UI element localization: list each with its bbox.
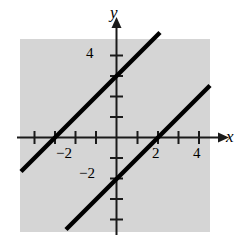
y-tick-label--2: −2 bbox=[79, 166, 95, 181]
plot-background bbox=[20, 39, 210, 232]
coordinate-plane bbox=[0, 0, 247, 246]
x-tick-label-2: 2 bbox=[152, 146, 160, 161]
y-axis-label: y bbox=[110, 4, 118, 21]
x-tick-label--2: −2 bbox=[56, 146, 72, 161]
y-tick-label-4: 4 bbox=[86, 46, 94, 61]
graph-figure: x y −2 2 4 4 −2 bbox=[0, 0, 247, 246]
x-tick-label-4: 4 bbox=[193, 146, 201, 161]
x-axis-label: x bbox=[226, 128, 234, 145]
